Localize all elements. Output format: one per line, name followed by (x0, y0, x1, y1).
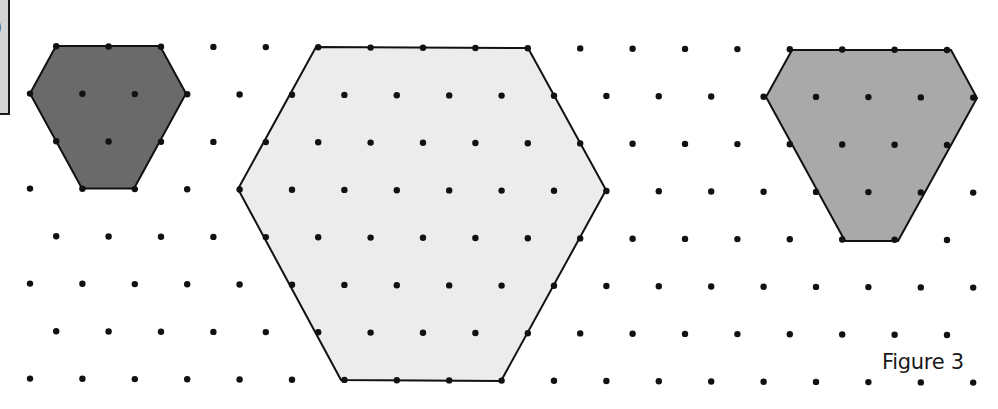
grid-dot (27, 90, 33, 96)
grid-dot (577, 235, 583, 241)
grid-dot (472, 140, 478, 146)
grid-dot (105, 43, 111, 49)
grid-dot (787, 46, 793, 52)
grid-dot (603, 378, 609, 384)
grid-dot (839, 236, 845, 242)
grid-dot (105, 138, 111, 144)
grid-dot (656, 283, 662, 289)
grid-dot (132, 376, 138, 382)
grid-dot (53, 328, 59, 334)
grid-dot (446, 377, 452, 383)
isometric-dot-grid-figure: ) Figure 3 (0, 0, 998, 409)
grid-dot (760, 284, 766, 290)
grid-dot (865, 379, 871, 385)
grid-dot (472, 235, 478, 241)
grid-dot (498, 187, 504, 193)
diagram-canvas (0, 0, 998, 409)
grid-dot (682, 236, 688, 242)
grid-dot (105, 233, 111, 239)
grid-dot (525, 235, 531, 241)
grid-dot (289, 377, 295, 383)
grid-dot (891, 47, 897, 53)
grid-dot (210, 139, 216, 145)
grid-dot (236, 281, 242, 287)
grid-dot (708, 188, 714, 194)
grid-dot (918, 379, 924, 385)
grid-dot (184, 91, 190, 97)
grid-dot (236, 186, 242, 192)
grid-dot (760, 189, 766, 195)
grid-dot (472, 330, 478, 336)
grid-dot (629, 46, 635, 52)
grid-dot (27, 185, 33, 191)
grid-dot (446, 187, 452, 193)
grid-dot (53, 233, 59, 239)
grid-dot (420, 330, 426, 336)
grid-dot (944, 142, 950, 148)
grid-dot (27, 280, 33, 286)
grid-dot (289, 92, 295, 98)
grid-dot (498, 282, 504, 288)
grid-dot (394, 187, 400, 193)
grid-dot (734, 141, 740, 147)
grid-dot (132, 91, 138, 97)
grid-dot (891, 332, 897, 338)
grid-dot (420, 235, 426, 241)
grid-dot (315, 139, 321, 145)
grid-dot (970, 94, 976, 100)
grid-dot (236, 91, 242, 97)
grid-dot (263, 139, 269, 145)
grid-dot (787, 141, 793, 147)
grid-dot (263, 44, 269, 50)
grid-dot (367, 139, 373, 145)
grid-dot (708, 283, 714, 289)
grid-dot (813, 379, 819, 385)
grid-dot (236, 376, 242, 382)
grid-dot (682, 46, 688, 52)
grid-dot (839, 141, 845, 147)
grid-dot (603, 283, 609, 289)
grid-dot (865, 94, 871, 100)
grid-dot (603, 188, 609, 194)
grid-dot (813, 189, 819, 195)
grid-dot (944, 237, 950, 243)
grid-dot (341, 377, 347, 383)
grid-dot (498, 377, 504, 383)
grid-dot (367, 44, 373, 50)
grid-dot (158, 44, 164, 50)
small-dark-hexagon (30, 46, 186, 189)
grid-dot (132, 281, 138, 287)
grid-dot (79, 186, 85, 192)
grid-dot (446, 92, 452, 98)
grid-dot (210, 234, 216, 240)
figure-caption: Figure 3 (882, 350, 964, 374)
grid-dot (734, 46, 740, 52)
grid-dot (525, 330, 531, 336)
grid-dot (918, 94, 924, 100)
grid-dot (629, 236, 635, 242)
grid-dot (708, 93, 714, 99)
grid-dot (263, 329, 269, 335)
grid-dot (367, 329, 373, 335)
grid-dot (577, 45, 583, 51)
grid-dot (682, 331, 688, 337)
grid-dot (525, 45, 531, 51)
grid-dot (787, 236, 793, 242)
grid-dot (682, 141, 688, 147)
grid-dot (158, 139, 164, 145)
grid-dot (970, 284, 976, 290)
grid-dot (341, 92, 347, 98)
grid-dot (918, 284, 924, 290)
grid-dot (708, 378, 714, 384)
grid-dot (944, 332, 950, 338)
grid-dot (472, 45, 478, 51)
grid-dot (656, 93, 662, 99)
grid-dot (420, 45, 426, 51)
grid-dot (865, 284, 871, 290)
grid-dot (315, 234, 321, 240)
grid-dot (551, 283, 557, 289)
grid-dot (839, 331, 845, 337)
grid-dot (184, 281, 190, 287)
grid-dot (944, 47, 950, 53)
grid-dot (656, 188, 662, 194)
